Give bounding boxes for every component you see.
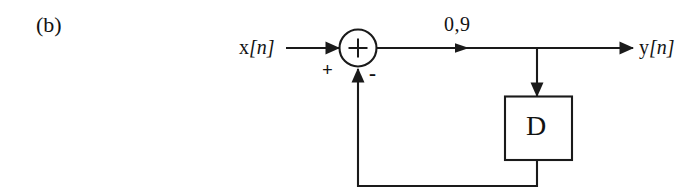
gain-coefficient-label: 0,9 xyxy=(444,14,471,34)
input-signal-base: x xyxy=(239,36,249,58)
adder-input-sign-positive: + xyxy=(322,60,333,79)
output-signal-base: y xyxy=(639,36,649,58)
diagram-canvas xyxy=(0,0,700,194)
input-signal-label: x[n] xyxy=(239,37,275,57)
output-signal-label: y[n] xyxy=(639,37,675,57)
forward-direction-arrowhead xyxy=(455,43,469,53)
input-signal-index: [n] xyxy=(249,36,275,58)
output-signal-index: [n] xyxy=(649,36,675,58)
panel-label: (b) xyxy=(36,14,62,36)
adder-input-sign-negative: - xyxy=(369,63,376,84)
block-diagram-figure: (b) x[n] y[n] 0,9 + - D xyxy=(0,0,700,194)
delay-block-label: D xyxy=(526,112,546,140)
